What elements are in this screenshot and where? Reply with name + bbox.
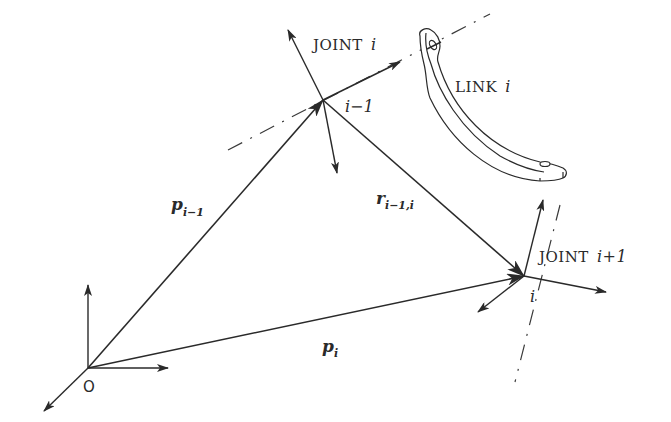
joint-i-label-prefix: JOINT xyxy=(311,36,363,54)
link-i-shape xyxy=(420,29,567,181)
origin-label: O xyxy=(83,378,95,396)
frame-i-minus-1-label: i−1 xyxy=(345,97,374,116)
link-i-distal-hole xyxy=(540,162,550,167)
p-i-minus-1-symbol: p xyxy=(171,194,183,214)
p-i-minus-1-label: pi−1 xyxy=(171,194,204,219)
frame-i-label: i xyxy=(530,287,535,306)
link-i-label: LINKi xyxy=(455,77,511,96)
r-subscript: i−1,i xyxy=(385,199,414,212)
joint-i-plus-1-label-index: i+1 xyxy=(597,247,627,266)
p-i-minus-1-subscript: i−1 xyxy=(183,206,204,219)
r-i-minus-1-i-label: ri−1,i xyxy=(376,188,414,212)
joint-i-plus-1-label: JOINTi+1 xyxy=(537,247,627,266)
vector-p-i-minus-1 xyxy=(88,100,323,368)
link-i-label-index: i xyxy=(505,77,511,96)
p-i-label: pi xyxy=(322,336,338,360)
link-i-label-prefix: LINK xyxy=(455,78,498,96)
frame-i-x-arrow xyxy=(524,276,606,292)
joint-i-label-index: i xyxy=(371,35,377,54)
p-i-subscript: i xyxy=(334,347,338,360)
vector-p-i xyxy=(88,276,524,368)
base-y-axis-arrow xyxy=(44,368,88,411)
kinematic-chain-diagram: JOINTi LINKi JOINTi+1 i−1 i O pi−1 ri−1,… xyxy=(0,0,671,422)
frame-i-minus-1-x-arrow xyxy=(323,62,400,100)
joint-i-plus-1-axis-line xyxy=(515,205,560,382)
p-i-symbol: p xyxy=(322,336,334,356)
vector-r-i-minus-1-i xyxy=(323,100,524,276)
joint-i-plus-1-label-prefix: JOINT xyxy=(537,248,589,266)
joint-i-label: JOINTi xyxy=(311,35,377,54)
